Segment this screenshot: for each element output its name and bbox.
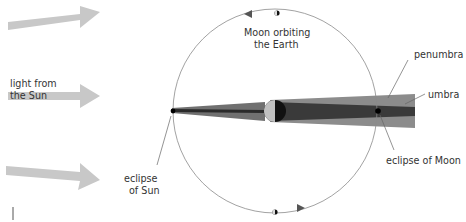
light-label-line1: light from [10, 78, 57, 89]
umbra-label: umbra [428, 89, 459, 100]
sunlight-arrow-top [8, 6, 100, 30]
eclipse-sun-label-line1: eclipse [124, 173, 158, 184]
penumbra-label: penumbra [414, 49, 463, 60]
eclipse-diagram: light from the Sun Moon orbiting the Ear… [0, 0, 466, 222]
moon-top [274, 10, 279, 15]
eclipse-sun-leader [157, 116, 171, 165]
sunlight-arrow-bottom [6, 163, 100, 190]
light-label-line2: the Sun [10, 90, 47, 101]
moon-eclipsed [375, 108, 381, 114]
penumbra-leader [388, 60, 408, 98]
moon-left [171, 109, 176, 114]
moon-bottom [272, 209, 277, 214]
orbit-arrow-bottom-icon [297, 204, 305, 212]
earth [264, 100, 286, 122]
eclipse-sun-label-line2: of Sun [129, 185, 160, 196]
orbit-arrow-top-icon [244, 10, 252, 18]
moon-orbit-label-line2: the Earth [254, 39, 299, 50]
eclipse-moon-label: eclipse of Moon [386, 155, 461, 166]
moon-orbit-label-line1: Moon orbiting [244, 27, 310, 38]
